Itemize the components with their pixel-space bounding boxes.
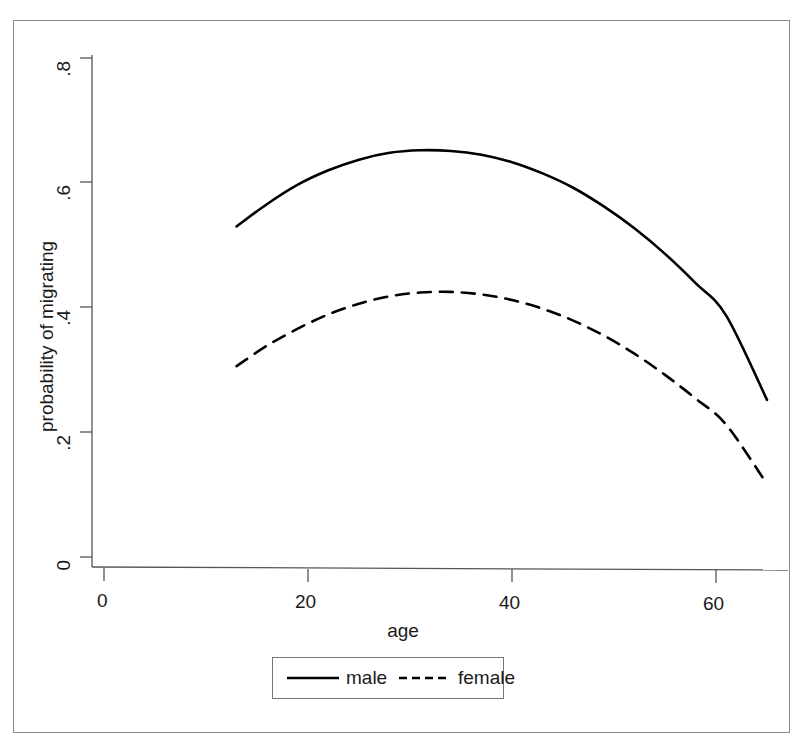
- legend-label-female: female: [458, 667, 515, 689]
- x-axis-title: age: [348, 620, 458, 642]
- x-tick-label-20: 20: [295, 591, 316, 613]
- x-tick-label-0: 0: [97, 590, 108, 612]
- y-axis-title: probability of migrating: [36, 241, 58, 432]
- legend: male female: [272, 657, 504, 699]
- y-tick-label-06: .6: [53, 185, 75, 209]
- y-tick-label-0: 0: [53, 560, 75, 584]
- line-series-male: [237, 150, 767, 400]
- y-tick-label-02: .2: [53, 435, 75, 459]
- x-axis-line: [92, 567, 788, 570]
- legend-entry-male: male: [287, 658, 387, 698]
- legend-line-solid-icon: [287, 673, 339, 683]
- legend-line-dashed-icon: [399, 673, 451, 683]
- y-tick-label-08: .8: [53, 61, 75, 85]
- line-series-female: [237, 292, 767, 484]
- x-tick-label-60: 60: [703, 593, 724, 615]
- legend-entry-female: female: [399, 658, 515, 698]
- x-tick-label-40: 40: [499, 592, 520, 614]
- figure-container: 0 .2 .4 .6 .8 0 20 40 60 probability of …: [0, 0, 803, 749]
- x-tick-marks: [104, 568, 716, 583]
- y-tick-marks: [80, 58, 92, 557]
- legend-label-male: male: [346, 667, 387, 689]
